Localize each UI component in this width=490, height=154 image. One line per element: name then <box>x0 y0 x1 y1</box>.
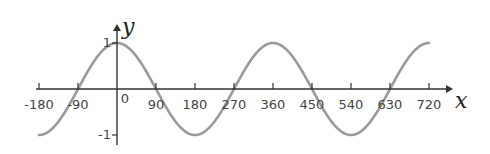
x-tick-label: 720 <box>417 97 442 112</box>
x-tick-label: 0 <box>121 91 129 106</box>
x-axis-label: x <box>455 88 468 113</box>
y-tick-label: -1 <box>98 127 111 142</box>
x-tick-label: -180 <box>24 97 54 112</box>
cosine-chart: -180-900901802703604505406307201-1 x y <box>0 0 490 154</box>
x-tick-label: 360 <box>261 97 286 112</box>
x-tick-label: -90 <box>67 97 88 112</box>
y-axis-label: y <box>121 14 135 39</box>
x-axis-arrow-icon <box>446 85 453 93</box>
x-tick-label: 450 <box>300 97 325 112</box>
y-tick-label: 1 <box>103 35 111 50</box>
x-tick-label: 90 <box>148 97 165 112</box>
x-tick-label: 540 <box>339 97 364 112</box>
x-tick-label: 180 <box>183 97 208 112</box>
x-tick-label: 630 <box>378 97 403 112</box>
y-axis-arrow-icon <box>113 24 121 31</box>
x-tick-label: 270 <box>222 97 247 112</box>
